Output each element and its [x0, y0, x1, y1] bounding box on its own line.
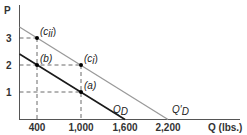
- curve-qd: [20, 54, 126, 120]
- x-axis-label: Q (lbs.): [208, 122, 242, 133]
- guide-lines: [20, 38, 82, 119]
- x-tick-2200: 2,200: [155, 122, 180, 133]
- y-tick-2: 2: [6, 60, 12, 71]
- point-a: [79, 90, 83, 94]
- point-ci: [79, 63, 83, 67]
- label-b: (b): [40, 53, 52, 64]
- x-tick-400: 400: [29, 122, 46, 133]
- label-qd-prime: Q′D: [172, 104, 189, 117]
- point-cii: [35, 36, 39, 40]
- label-qd: QD: [113, 104, 128, 117]
- y-axis-label: P: [4, 5, 11, 16]
- point-b: [35, 63, 39, 67]
- demand-chart: (cii) (b) (ci) (a) QD Q′D P 3 2 1 400 1,…: [0, 0, 247, 135]
- label-cii: (cii): [40, 26, 56, 39]
- x-tick-1000: 1,000: [68, 122, 93, 133]
- y-tick-1: 1: [6, 87, 12, 98]
- y-tick-3: 3: [6, 33, 12, 44]
- label-ci: (ci): [84, 53, 98, 66]
- x-tick-1600: 1,600: [112, 122, 137, 133]
- curve-qd-prime: [20, 27, 169, 120]
- label-a: (a): [84, 80, 96, 91]
